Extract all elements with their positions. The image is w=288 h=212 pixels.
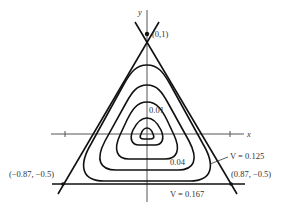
axes (51, 10, 244, 202)
contour-label-v-0167: V = 0.167 (170, 189, 204, 199)
contour-label-v-0125: V = 0.125 (230, 151, 264, 161)
y-axis-label: y (137, 7, 142, 17)
vertex-top-dot (145, 32, 149, 36)
vertex-top-label: (0,1) (152, 29, 168, 39)
x-axis-label: x (246, 129, 251, 139)
vertex-bottom-left-dot (61, 182, 65, 186)
contour-label-004: 0.04 (170, 157, 186, 167)
vertex-bottom-right-dot (229, 182, 233, 186)
vertex-bottom-right-label: (0.87, −0.5) (231, 169, 271, 179)
contour-label-001: 0.01 (149, 105, 164, 115)
contour-figure: y x (0,1) (−0.87, −0.5) (0.87, −0.5) 0.0… (0, 0, 288, 212)
left-boundary-line (58, 22, 159, 194)
vertex-bottom-left-label: (−0.87, −0.5) (9, 169, 54, 179)
